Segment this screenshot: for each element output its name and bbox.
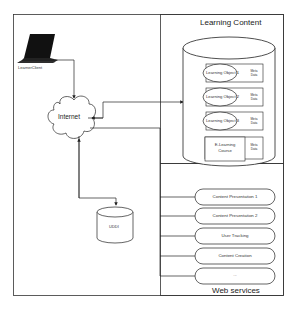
learning-object-3-meta: Meta Data bbox=[249, 118, 259, 125]
service-1-label[interactable]: Content Presentation 1 bbox=[195, 195, 275, 199]
course-label-line2: Course bbox=[205, 149, 245, 153]
learning-object-3-label: Learning Object 3 bbox=[206, 119, 234, 123]
internet-uddi-link bbox=[79, 136, 116, 205]
internet-label: Internet bbox=[58, 114, 80, 121]
learning-content-title: Learning Content bbox=[200, 19, 261, 27]
uddi-label: UDDI bbox=[109, 225, 119, 229]
service-4-label[interactable]: Content Creation bbox=[195, 254, 275, 258]
client-internet-link bbox=[55, 60, 74, 98]
diagram-canvas bbox=[0, 0, 295, 309]
service-branches bbox=[160, 197, 195, 276]
service-3-label[interactable]: User Tracking bbox=[195, 234, 275, 238]
web-services-title: Web services bbox=[212, 287, 260, 295]
service-5-label[interactable]: ... bbox=[195, 273, 275, 277]
learning-object-1-meta: Meta Data bbox=[249, 70, 259, 77]
service-2-label[interactable]: Content Presentation 2 bbox=[195, 214, 275, 218]
laptop-icon bbox=[17, 34, 58, 63]
learning-object-1-label: Learning Object 1 bbox=[206, 71, 234, 75]
course-label-line1: E-Learning bbox=[205, 143, 245, 147]
course-meta: Meta Data bbox=[249, 144, 259, 151]
learner-client-label: LearnerClient bbox=[18, 66, 42, 70]
learning-object-2-meta: Meta Data bbox=[249, 94, 259, 101]
internet-content-link bbox=[88, 102, 183, 118]
learning-object-2-label: Learning Object 2 bbox=[206, 95, 234, 99]
internet-services-link bbox=[90, 128, 160, 276]
